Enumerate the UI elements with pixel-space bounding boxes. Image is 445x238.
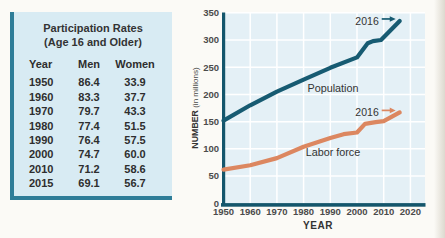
x-tick-label: 2020 xyxy=(400,206,421,217)
table-cell: 51.5 xyxy=(109,119,161,133)
table-row: 1980 77.4 51.5 xyxy=(29,119,172,133)
table-cell: 1960 xyxy=(29,90,69,104)
y-tick-label: 150 xyxy=(203,116,219,127)
y-tick-label: 250 xyxy=(203,62,219,73)
table-cell: 60.0 xyxy=(109,147,161,161)
table-cell: 77.4 xyxy=(69,119,109,133)
x-tick-label: 1980 xyxy=(293,206,314,217)
table-row: 2000 74.7 60.0 xyxy=(29,147,172,161)
plot-area xyxy=(225,13,425,204)
y-axis-label: NUMBER (in millions) xyxy=(190,67,200,149)
table-row: 1990 76.4 57.5 xyxy=(29,133,172,147)
table-cell: 71.2 xyxy=(69,162,109,176)
table-cell: 69.1 xyxy=(69,176,109,190)
table-grid: Year Men Women 1950 86.4 33.9 1960 83.3 … xyxy=(14,57,172,191)
y-axis-spine xyxy=(222,13,225,207)
table-cell: 83.3 xyxy=(69,90,109,104)
x-tick-label: 1950 xyxy=(213,206,234,217)
chart-svg: 0501001502002503003501950196019701980199… xyxy=(190,0,445,238)
page-edge-shadow xyxy=(434,0,445,238)
table-cell: 86.4 xyxy=(69,75,109,89)
table-cell: 57.5 xyxy=(109,133,161,147)
x-tick-label: 1960 xyxy=(240,206,261,217)
x-tick-label: 2010 xyxy=(373,206,394,217)
x-tick-label: 1990 xyxy=(320,206,341,217)
table-cell: 1970 xyxy=(29,104,69,118)
col-header-men: Men xyxy=(69,57,109,71)
table-cell: 74.7 xyxy=(69,147,109,161)
table-title-line1: Participation Rates xyxy=(14,21,172,35)
y-tick-label: 300 xyxy=(203,34,219,45)
col-header-women: Women xyxy=(109,57,161,71)
table-header-row: Year Men Women xyxy=(29,57,172,71)
table-cell: 33.9 xyxy=(109,75,161,89)
table-cell: 1980 xyxy=(29,119,69,133)
y-tick-label: 350 xyxy=(203,7,219,18)
table-cell: 1950 xyxy=(29,75,69,89)
x-tick-label: 1970 xyxy=(266,206,287,217)
table-cell: 58.6 xyxy=(109,162,161,176)
y-tick-label: 50 xyxy=(208,170,219,181)
table-cell: 2015 xyxy=(29,176,69,190)
table-cell: 43.3 xyxy=(109,104,161,118)
table-row: 1970 79.7 43.3 xyxy=(29,104,172,118)
table-cell: 56.7 xyxy=(109,176,161,190)
table-title: Participation Rates (Age 16 and Older) xyxy=(14,12,172,49)
table-row: 2010 71.2 58.6 xyxy=(29,162,172,176)
y-tick-label: 100 xyxy=(203,143,219,154)
table-cell: 37.7 xyxy=(109,90,161,104)
line-chart: 0501001502002503003501950196019701980199… xyxy=(190,0,445,238)
x-tick-label: 2000 xyxy=(346,206,367,217)
table-cell: 2010 xyxy=(29,162,69,176)
table-row: 2015 69.1 56.7 xyxy=(29,176,172,190)
population-annotation-2016: 2016 xyxy=(355,15,379,27)
figure: Participation Rates (Age 16 and Older) Y… xyxy=(0,0,445,238)
population-label: Population xyxy=(307,82,358,94)
y-tick-label: 200 xyxy=(203,89,219,100)
table-row: 1960 83.3 37.7 xyxy=(29,90,172,104)
table-cell: 1990 xyxy=(29,133,69,147)
labor-force-label: Labor force xyxy=(306,146,361,158)
labor-force-annotation-2016: 2016 xyxy=(355,106,379,118)
x-axis-label: YEAR xyxy=(303,220,333,231)
table-cell: 2000 xyxy=(29,147,69,161)
table-title-line2: (Age 16 and Older) xyxy=(14,35,172,49)
col-header-year: Year xyxy=(29,57,69,71)
participation-table: Participation Rates (Age 16 and Older) Y… xyxy=(10,12,172,200)
table-row: 1950 86.4 33.9 xyxy=(29,75,172,89)
table-cell: 79.7 xyxy=(69,104,109,118)
table-cell: 76.4 xyxy=(69,133,109,147)
